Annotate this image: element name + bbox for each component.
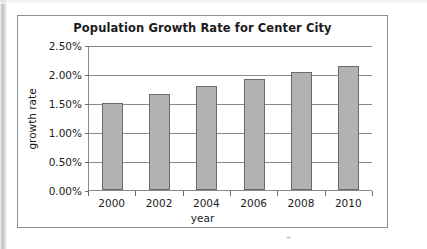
- y-tick-label: 1.50%: [49, 98, 82, 110]
- x-tick-mark: [183, 191, 184, 196]
- x-tick-label: 2006: [230, 197, 277, 209]
- bar-column: [231, 46, 278, 190]
- chart-title: Population Growth Rate for Center City: [18, 21, 387, 35]
- y-axis-title: growth rate: [26, 74, 38, 164]
- scan-edge-artifact-top: [0, 0, 427, 4]
- x-tick-mark: [230, 191, 231, 196]
- y-tick-label: 0.00%: [49, 185, 82, 197]
- bar-2002: [149, 94, 170, 190]
- x-tick-mark: [325, 191, 326, 196]
- scan-speck-artifact: [286, 236, 291, 239]
- bar-column: [278, 46, 325, 190]
- x-tick-label: 2004: [183, 197, 230, 209]
- bar-2010: [338, 66, 359, 190]
- x-tick-label: 2000: [88, 197, 135, 209]
- bar-column: [89, 46, 136, 190]
- x-axis-tick-labels: 200020022004200620082010: [88, 197, 372, 209]
- x-tick-label: 2010: [325, 197, 372, 209]
- y-tick-label: 0.50%: [49, 156, 82, 168]
- x-tick-mark: [88, 191, 89, 196]
- bar-2004: [196, 86, 217, 190]
- y-tick-label: 1.00%: [49, 127, 82, 139]
- chart-frame: Population Growth Rate for Center City g…: [17, 15, 388, 228]
- x-tick-mark: [372, 191, 373, 196]
- y-tick-label: 2.50%: [49, 40, 82, 52]
- y-tick-label: 2.00%: [49, 69, 82, 81]
- x-tick-mark: [277, 191, 278, 196]
- bar-2000: [102, 103, 123, 190]
- bar-column: [325, 46, 372, 190]
- scan-edge-artifact-left: [0, 0, 7, 249]
- x-axis-title: year: [18, 212, 387, 224]
- bar-2008: [291, 72, 312, 190]
- x-tick-label: 2008: [277, 197, 324, 209]
- bar-series: [89, 46, 372, 190]
- x-tick-mark: [135, 191, 136, 196]
- x-tick-label: 2002: [135, 197, 182, 209]
- plot-area: 2.50%2.00%1.50%1.00%0.50%0.00%: [88, 46, 372, 191]
- bar-column: [183, 46, 230, 190]
- bar-column: [136, 46, 183, 190]
- bar-2006: [244, 79, 265, 190]
